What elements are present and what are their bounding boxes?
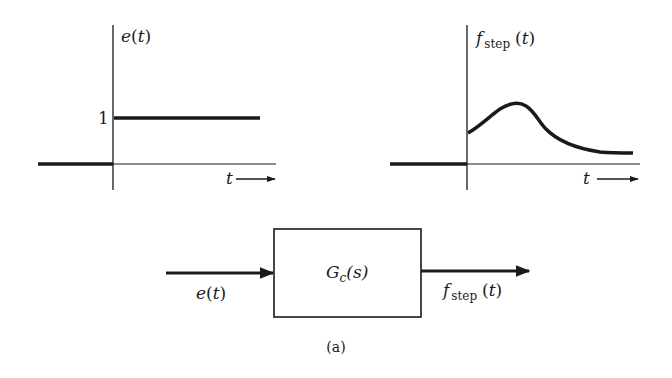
input-plot-x-label: t: [226, 168, 233, 188]
block-output-label: fstep(t): [441, 280, 502, 303]
input-plot-y-label: e(t): [121, 26, 151, 46]
controller-block-diagram: Gc(s) e(t) fstep(t): [166, 229, 529, 317]
step-level-label: 1: [98, 108, 109, 128]
block-input-label: e(t): [196, 283, 226, 303]
controller-transfer-function: Gc(s): [326, 262, 368, 285]
input-step-plot: e(t) 1 t: [38, 25, 276, 190]
output-plot-y-label: fstep(t): [474, 28, 535, 51]
figure-caption: (a): [326, 339, 345, 355]
output-plot-x-label: t: [583, 168, 590, 188]
output-response-curve: [468, 103, 633, 153]
output-response-plot: fstep(t) t: [390, 25, 640, 190]
block-diagram-figure: e(t) 1 t fstep(t) t Gc(s) e(t) fstep(t) …: [0, 0, 672, 378]
